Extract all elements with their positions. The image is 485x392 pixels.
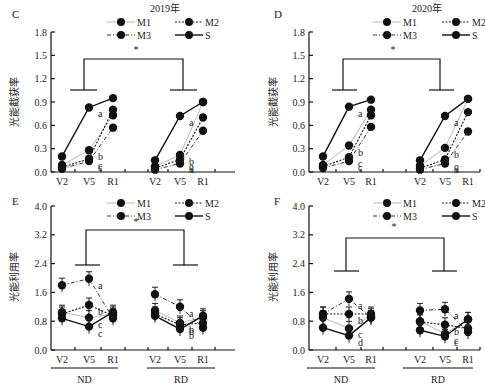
legend-marker-icon (185, 18, 193, 26)
x-tick-label: V5 (174, 176, 186, 187)
legend-item-m2: M2 (442, 17, 485, 28)
legend-marker-icon (185, 199, 193, 207)
x-tick-label: V2 (149, 354, 161, 365)
data-point (319, 323, 327, 331)
x-tick-label: V2 (317, 354, 329, 365)
legend-marker-icon (452, 199, 460, 207)
y-tick-label: 3.2 (35, 229, 48, 240)
x-tick-label: V2 (317, 176, 329, 187)
panel-e: E0.00.81.62.43.24.0V2V5R1V2V5R1光能利用率*M1M… (8, 195, 235, 385)
group-label-nd: ND (334, 374, 348, 385)
significance-star: * (134, 44, 139, 55)
legend-label: M3 (403, 211, 417, 222)
y-tick-label: 0.3 (35, 143, 48, 154)
legend-label: M3 (137, 211, 151, 222)
data-point (345, 295, 353, 303)
panel-d: D2020年0.00.30.60.91.21.51.8V2V5R1V2V5R1光… (267, 2, 485, 187)
y-tick-label: 0.8 (293, 316, 306, 327)
significance-letter: b (358, 315, 363, 326)
legend-item-m1: M1 (107, 198, 151, 209)
y-tick-label: 1.2 (35, 73, 48, 84)
y-tick-label: 0.6 (35, 120, 48, 131)
group-label-nd: ND (77, 374, 91, 385)
significance-letter: d (189, 164, 194, 175)
significance-letter: c (98, 162, 103, 173)
data-point (367, 123, 375, 131)
data-point (58, 165, 66, 173)
legend-label: M2 (205, 17, 219, 28)
y-tick-label: 2.4 (35, 258, 48, 269)
x-tick-label: V2 (414, 176, 426, 187)
data-point (441, 159, 449, 167)
legend-label: S (205, 211, 211, 222)
data-point (199, 98, 207, 106)
data-point (151, 290, 159, 298)
legend-label: S (472, 30, 478, 41)
chart-title: 2020年 (412, 2, 442, 14)
legend-item-s: S (442, 211, 478, 222)
data-point (199, 323, 207, 331)
y-axis-label: 光能利用率 (267, 252, 279, 302)
y-tick-label: 0.9 (293, 97, 306, 108)
data-point (319, 152, 327, 160)
legend-item-m2: M2 (175, 198, 219, 209)
data-point (109, 94, 117, 102)
y-tick-label: 1.8 (293, 27, 306, 38)
legend-label: M1 (403, 17, 417, 28)
legend-label: M1 (137, 198, 151, 209)
significance-letter: d (454, 164, 459, 175)
data-point (367, 95, 375, 103)
significance-letter: a (454, 310, 459, 321)
significance-letter: b (454, 149, 459, 160)
group-label-rd: RD (174, 374, 188, 385)
y-tick-label: 1.6 (293, 287, 306, 298)
significance-letter: a (358, 300, 363, 311)
legend-marker-icon (117, 212, 125, 220)
y-tick-label: 4.0 (35, 201, 48, 212)
data-point (176, 303, 184, 311)
y-tick-label: 0.8 (35, 316, 48, 327)
legend-marker-icon (452, 212, 460, 220)
y-tick-label: 2.4 (293, 258, 306, 269)
data-point (176, 112, 184, 120)
significance-bracket (343, 59, 440, 90)
data-point (367, 313, 375, 321)
data-point (464, 127, 472, 135)
legend-marker-icon (117, 31, 125, 39)
legend-label: M3 (403, 30, 417, 41)
group-label-rd: RD (431, 374, 445, 385)
data-point (345, 141, 353, 149)
legend-label: M2 (472, 198, 485, 209)
data-point (151, 165, 159, 173)
legend-marker-icon (383, 18, 391, 26)
significance-letter: a (189, 117, 194, 128)
y-tick-label: 1.5 (35, 50, 48, 61)
x-tick-label: R1 (365, 354, 377, 365)
panel-label: C (12, 8, 19, 20)
x-tick-label: V5 (83, 354, 95, 365)
x-tick-label: V2 (56, 354, 68, 365)
data-point (416, 306, 424, 314)
x-tick-label: R1 (462, 354, 474, 365)
significance-star: * (392, 221, 397, 232)
legend-item-m3: M3 (107, 30, 151, 41)
y-tick-label: 0.9 (35, 97, 48, 108)
data-point (345, 157, 353, 165)
data-point (85, 322, 93, 330)
data-point (464, 315, 472, 323)
x-tick-label: R1 (462, 176, 474, 187)
data-point (85, 103, 93, 111)
panel-c: C2019年0.00.30.60.91.21.51.8V2V5R1V2V5R1光… (8, 2, 235, 187)
legend-label: S (205, 30, 211, 41)
y-tick-label: 0.0 (293, 167, 306, 178)
panel-label: D (274, 8, 282, 20)
data-point (345, 102, 353, 110)
panel-label: E (12, 195, 19, 207)
legend-item-s: S (175, 30, 211, 41)
legend-item-m1: M1 (373, 198, 417, 209)
x-tick-label: V2 (56, 176, 68, 187)
significance-letter: c (98, 328, 103, 339)
data-point (109, 106, 117, 114)
significance-letter: a (98, 108, 103, 119)
y-tick-label: 1.6 (35, 287, 48, 298)
